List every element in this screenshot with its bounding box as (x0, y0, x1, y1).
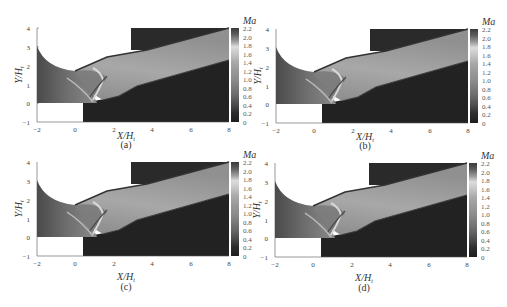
svg-text:4: 4 (389, 127, 393, 135)
svg-text:1.0: 1.0 (482, 77, 491, 85)
svg-text:0: 0 (311, 261, 315, 269)
y-tick: 1 (27, 82, 31, 90)
svg-text:2: 2 (112, 260, 116, 268)
svg-text:0: 0 (481, 254, 485, 262)
contour-plot-d: 4 3 2 1 0 −1 −2 0 2 4 6 8 X/Ht Y/Ht (d) … (238, 135, 507, 305)
svg-text:6: 6 (428, 127, 432, 135)
svg-text:1.2: 1.2 (482, 69, 491, 77)
svg-text:0.4: 0.4 (481, 237, 490, 245)
svg-text:8: 8 (466, 127, 470, 135)
colorbar: Ma 2.2 2.0 1.8 1.6 1.4 1.2 1.0 0.8 0.6 0… (470, 16, 495, 128)
svg-text:1.8: 1.8 (481, 177, 490, 185)
svg-text:6: 6 (189, 260, 193, 268)
svg-text:1.0: 1.0 (481, 211, 490, 219)
svg-text:−1: −1 (262, 120, 270, 128)
svg-text:4: 4 (150, 260, 154, 268)
svg-text:2.2: 2.2 (482, 26, 491, 34)
svg-text:3: 3 (27, 178, 31, 186)
svg-text:0.8: 0.8 (482, 86, 491, 94)
svg-text:8: 8 (465, 261, 469, 269)
svg-text:−2: −2 (271, 261, 279, 269)
svg-text:1.6: 1.6 (482, 52, 491, 60)
svg-text:0: 0 (265, 235, 269, 243)
svg-text:0.8: 0.8 (481, 220, 490, 228)
svg-text:0.2: 0.2 (481, 245, 490, 253)
y-axis-title: Y/Ht (13, 66, 25, 84)
y-tick: 2 (27, 63, 31, 71)
y-tick: −1 (23, 119, 31, 127)
svg-text:1.2: 1.2 (481, 203, 490, 211)
y-axis-title: Y/Ht (251, 201, 263, 219)
svg-text:2.0: 2.0 (482, 35, 491, 43)
y-tick: 3 (27, 44, 31, 52)
svg-text:2: 2 (27, 197, 31, 205)
svg-text:0: 0 (266, 101, 270, 109)
svg-text:0: 0 (482, 120, 486, 128)
x-tick: 8 (227, 126, 231, 134)
svg-text:2: 2 (265, 198, 269, 206)
svg-text:−1: −1 (261, 254, 269, 262)
svg-text:4: 4 (265, 160, 269, 168)
svg-text:1: 1 (265, 217, 269, 225)
svg-text:1.4: 1.4 (482, 60, 491, 68)
svg-text:6: 6 (427, 261, 431, 269)
svg-text:1.8: 1.8 (482, 43, 491, 51)
svg-text:2: 2 (350, 261, 354, 269)
svg-text:0.4: 0.4 (482, 103, 491, 111)
svg-text:1.4: 1.4 (481, 194, 490, 202)
panel-c: 4 3 2 1 0 −1 −2 0 2 4 6 8 X/Ht Y/Ht (c) … (0, 134, 250, 284)
panel-caption: (d) (358, 282, 370, 294)
svg-text:−2: −2 (33, 260, 41, 268)
panel-b: 4 3 2 1 0 −1 −2 0 2 4 6 8 X/Ht Y/Ht (b) … (239, 1, 489, 151)
contour-plot-a: 4 3 2 1 0 −1 −2 0 2 4 6 8 X/Ht Y/Ht (a) … (0, 0, 250, 150)
x-tick: 4 (150, 126, 154, 134)
svg-text:1: 1 (266, 83, 270, 91)
contour-plot-b: 4 3 2 1 0 −1 −2 0 2 4 6 8 X/Ht Y/Ht (b) … (239, 1, 507, 151)
svg-text:0.2: 0.2 (482, 111, 491, 119)
x-tick: −2 (33, 126, 41, 134)
svg-text:0.6: 0.6 (481, 228, 490, 236)
panel-caption: (c) (120, 281, 131, 293)
svg-text:3: 3 (266, 45, 270, 53)
svg-text:3: 3 (265, 179, 269, 187)
svg-text:0: 0 (27, 234, 31, 242)
y-axis-title: Y/Ht (13, 200, 25, 218)
x-tick: 6 (189, 126, 193, 134)
svg-text:2.0: 2.0 (481, 169, 490, 177)
svg-text:4: 4 (27, 159, 31, 167)
colorbar: Ma 2.2 2.0 1.8 1.6 1.4 1.2 1.0 0.8 0.6 0… (469, 150, 494, 262)
svg-text:0: 0 (312, 127, 316, 135)
panel-a: 4 3 2 1 0 −1 −2 0 2 4 6 8 X/Ht Y/Ht (a) … (0, 0, 250, 150)
x-tick: 2 (112, 126, 116, 134)
y-axis-title: Y/Ht (252, 67, 264, 85)
svg-text:1: 1 (27, 216, 31, 224)
y-tick: 0 (27, 100, 31, 108)
svg-text:−1: −1 (23, 253, 31, 261)
svg-text:4: 4 (266, 26, 270, 34)
x-tick: 0 (73, 126, 77, 134)
svg-text:2.2: 2.2 (481, 160, 490, 168)
contour-plot-c: 4 3 2 1 0 −1 −2 0 2 4 6 8 X/Ht Y/Ht (c) … (0, 134, 250, 304)
svg-text:1.6: 1.6 (481, 186, 490, 194)
svg-text:8: 8 (227, 260, 231, 268)
y-tick: 4 (27, 25, 31, 33)
svg-text:4: 4 (388, 261, 392, 269)
svg-text:0.6: 0.6 (482, 94, 491, 102)
svg-text:0: 0 (73, 260, 77, 268)
svg-text:−2: −2 (272, 127, 280, 135)
svg-text:2: 2 (351, 127, 355, 135)
svg-text:2: 2 (266, 64, 270, 72)
panel-d: 4 3 2 1 0 −1 −2 0 2 4 6 8 X/Ht Y/Ht (d) … (238, 135, 488, 285)
